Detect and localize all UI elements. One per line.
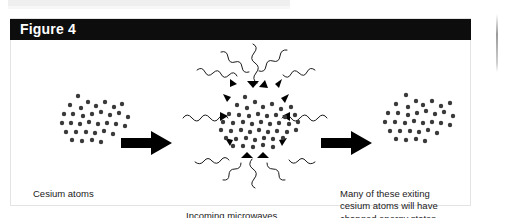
atom-cluster-center	[215, 93, 303, 151]
figure-page: Figure 4	[0, 0, 505, 218]
caption-incoming-microwaves: Incoming microwaves	[186, 210, 277, 218]
page-edge-artifact	[496, 14, 498, 72]
scan-artifact-band-soft	[8, 6, 290, 9]
flow-arrow-1	[121, 130, 173, 156]
atom-cluster-right	[378, 90, 460, 150]
caption-cesium-atoms: Cesium atoms	[33, 188, 94, 200]
flow-arrow-2	[321, 130, 373, 156]
figure-title: Figure 4	[20, 21, 76, 37]
caption-exiting-atoms: Many of these exiting cesium atoms will …	[340, 188, 439, 218]
figure-header-bar: Figure 4	[10, 19, 471, 40]
figure-diagram: Cesium atoms Incoming microwaves Many of…	[10, 40, 471, 206]
